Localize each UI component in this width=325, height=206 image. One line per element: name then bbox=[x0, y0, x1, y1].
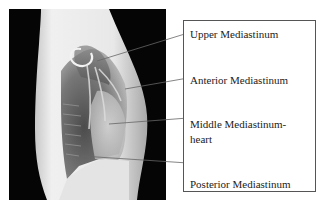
label-box: Upper Mediastinum Anterior Mediastinum M… bbox=[183, 20, 316, 192]
label-middle-mediastinum-heart: heart bbox=[190, 132, 212, 146]
label-upper-mediastinum: Upper Mediastinum bbox=[190, 27, 278, 41]
label-posterior-mediastinum: Posterior Mediastinum bbox=[190, 177, 291, 191]
label-anterior-mediastinum: Anterior Mediastinum bbox=[190, 73, 288, 87]
label-middle-mediastinum: Middle Mediastinum- bbox=[190, 117, 286, 131]
lateral-chest-xray bbox=[9, 9, 166, 200]
